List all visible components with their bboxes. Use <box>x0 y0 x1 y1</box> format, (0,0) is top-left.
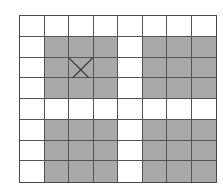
empty-cell <box>118 58 143 79</box>
shaded-cell <box>69 141 94 162</box>
shaded-cell <box>192 161 217 182</box>
empty-cell <box>69 99 94 120</box>
shaded-cell <box>94 141 119 162</box>
shaded-cell <box>69 78 94 99</box>
shaded-cell <box>45 120 70 141</box>
empty-cell <box>20 141 45 162</box>
shaded-cell <box>192 58 217 79</box>
shaded-cell <box>94 78 119 99</box>
empty-cell <box>118 161 143 182</box>
shaded-cell <box>94 58 119 79</box>
shaded-cell <box>143 161 168 182</box>
empty-cell <box>143 99 168 120</box>
shaded-cell <box>45 78 70 99</box>
shaded-cell <box>45 141 70 162</box>
shaded-cell <box>167 58 192 79</box>
shaded-cell <box>167 141 192 162</box>
empty-cell <box>20 58 45 79</box>
empty-cell <box>20 78 45 99</box>
empty-cell <box>118 99 143 120</box>
empty-cell <box>118 120 143 141</box>
empty-cell <box>94 99 119 120</box>
empty-cell <box>192 99 217 120</box>
empty-cell <box>143 16 168 37</box>
empty-cell <box>20 99 45 120</box>
empty-cell <box>45 99 70 120</box>
shaded-cell <box>167 120 192 141</box>
shaded-cell <box>69 120 94 141</box>
grid-diagram <box>19 15 217 183</box>
empty-cell <box>45 16 70 37</box>
shaded-cell <box>143 58 168 79</box>
empty-cell <box>192 16 217 37</box>
empty-cell <box>20 161 45 182</box>
empty-cell <box>94 16 119 37</box>
empty-cell <box>118 16 143 37</box>
empty-cell <box>20 120 45 141</box>
shaded-cell <box>192 120 217 141</box>
shaded-cell <box>94 120 119 141</box>
empty-cell <box>167 16 192 37</box>
empty-cell <box>118 78 143 99</box>
shaded-cell <box>45 58 70 79</box>
shaded-cell <box>45 37 70 58</box>
shaded-cell <box>192 37 217 58</box>
empty-cell <box>167 99 192 120</box>
shaded-cell <box>94 37 119 58</box>
shaded-cell <box>69 161 94 182</box>
shaded-cell <box>167 78 192 99</box>
empty-cell <box>20 37 45 58</box>
empty-cell <box>69 16 94 37</box>
shaded-cell <box>143 37 168 58</box>
shaded-cell <box>192 78 217 99</box>
empty-cell <box>118 141 143 162</box>
shaded-cell <box>192 141 217 162</box>
shaded-cell <box>143 141 168 162</box>
shaded-cell <box>69 37 94 58</box>
shaded-cell <box>167 37 192 58</box>
shaded-cell <box>167 161 192 182</box>
marked-cell <box>69 58 94 79</box>
empty-cell <box>20 16 45 37</box>
shaded-cell <box>45 161 70 182</box>
empty-cell <box>118 37 143 58</box>
shaded-cell <box>143 78 168 99</box>
shaded-cell <box>143 120 168 141</box>
shaded-cell <box>94 161 119 182</box>
